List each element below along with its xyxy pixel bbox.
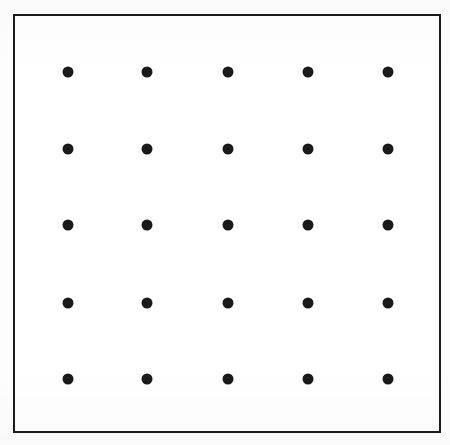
grid-dot-r4c5 xyxy=(383,298,394,309)
grid-dot-r1c1 xyxy=(63,67,74,78)
grid-dot-r2c4 xyxy=(303,144,314,155)
grid-dot-r1c2 xyxy=(142,67,153,78)
dot-grid-layer xyxy=(0,0,450,445)
grid-dot-r3c5 xyxy=(383,220,394,231)
grid-dot-r1c4 xyxy=(303,67,314,78)
grid-dot-r5c1 xyxy=(63,374,74,385)
grid-dot-r2c5 xyxy=(383,144,394,155)
grid-dot-r1c3 xyxy=(223,67,234,78)
grid-dot-r2c1 xyxy=(63,144,74,155)
grid-dot-r3c1 xyxy=(63,220,74,231)
grid-dot-r2c3 xyxy=(223,144,234,155)
grid-dot-r4c1 xyxy=(63,298,74,309)
grid-dot-r5c4 xyxy=(303,374,314,385)
figure-canvas xyxy=(0,0,450,445)
grid-dot-r5c3 xyxy=(223,374,234,385)
grid-dot-r3c3 xyxy=(223,220,234,231)
grid-dot-r4c4 xyxy=(303,298,314,309)
grid-dot-r5c2 xyxy=(142,374,153,385)
grid-dot-r5c5 xyxy=(383,374,394,385)
grid-dot-r3c2 xyxy=(142,220,153,231)
grid-dot-r2c2 xyxy=(142,144,153,155)
grid-dot-r4c2 xyxy=(142,298,153,309)
grid-dot-r3c4 xyxy=(303,220,314,231)
grid-dot-r4c3 xyxy=(223,298,234,309)
grid-dot-r1c5 xyxy=(383,67,394,78)
